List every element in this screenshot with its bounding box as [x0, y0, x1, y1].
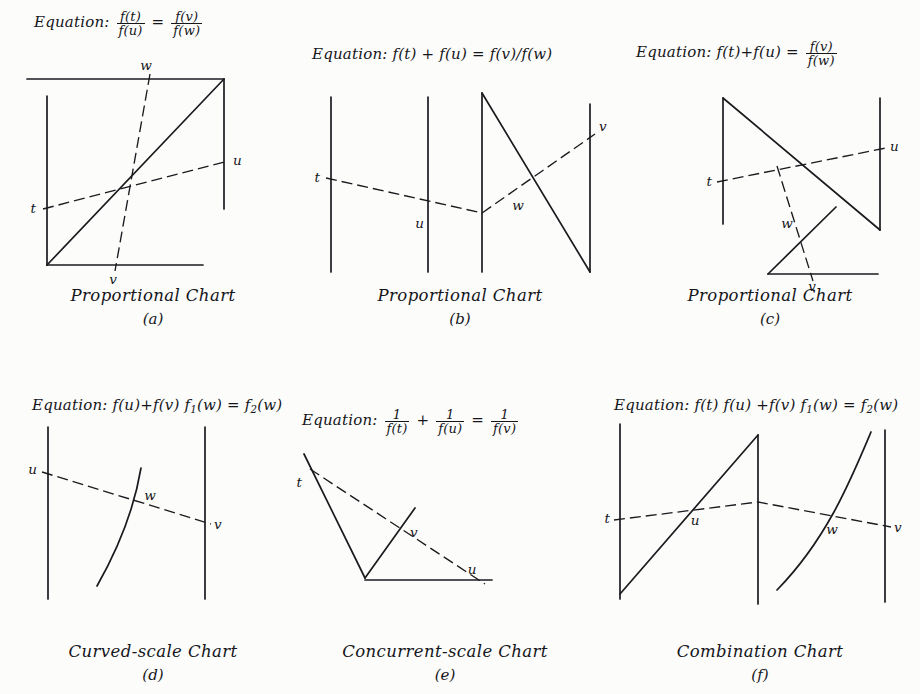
- equation-e-prefix: Equation:: [302, 411, 378, 429]
- caption-e: Concurrent-scale Chart: [280, 642, 610, 661]
- panel-f-drawing: t u w v: [600, 422, 920, 622]
- equation-a-operator: =: [152, 13, 165, 31]
- equation-e-fraction-3-den: f(v): [491, 421, 518, 435]
- panel-b-label-t: t: [315, 169, 321, 185]
- panel-a-label-t: t: [31, 200, 37, 216]
- equation-e: Equation: 1 f(t) + 1 f(u) = 1 f(v): [302, 408, 520, 436]
- panel-e-label-u: u: [468, 561, 477, 577]
- equation-a-fraction-right-den: f(w): [171, 23, 202, 37]
- equation-a-prefix: Equation:: [34, 13, 110, 31]
- equation-e-fraction-1: 1 f(t): [385, 408, 410, 436]
- panel-a-label-v: v: [109, 271, 117, 287]
- equation-e-fraction-2: 1 f(u): [436, 408, 464, 436]
- panel-a-drawing: w u t v: [0, 66, 306, 281]
- equation-e-fraction-1-den: f(t): [385, 421, 410, 435]
- equation-a-fraction-left-num: f(t): [117, 10, 145, 23]
- caption-b: Proportional Chart: [300, 286, 620, 305]
- equation-a-fraction-right: f(v) f(w): [171, 10, 202, 38]
- equation-b: Equation: f(t) + f(u) = f(v)/f(w): [312, 45, 552, 63]
- panel-e-label-v: v: [410, 524, 418, 540]
- panel-b-label-w: w: [512, 197, 524, 213]
- equation-f: Equation: f(t) f(u) +f(v) f1(w) = f2(w): [614, 396, 898, 415]
- panel-b-drawing: t u w v: [300, 82, 620, 282]
- panel-e: Equation: 1 f(t) + 1 f(u) = 1 f(v): [280, 370, 610, 694]
- sublabel-d: (d): [0, 666, 306, 684]
- panel-e-label-t: t: [297, 474, 303, 490]
- panel-f-label-w: w: [826, 521, 838, 537]
- equation-d-sub-1: 1: [190, 404, 197, 415]
- equation-f-part-2: (w) = f: [813, 396, 867, 414]
- figure-sheet: Equation: f(t) f(u) = f(v) f(w): [0, 0, 920, 694]
- equation-d-part-1: f(u)+f(v) f: [113, 396, 191, 414]
- caption-d: Curved-scale Chart: [0, 642, 306, 661]
- equation-e-operator-equals: =: [471, 411, 484, 429]
- equation-a-fraction-left: f(t) f(u): [117, 10, 145, 38]
- equation-d-part-2: (w) = f: [197, 396, 251, 414]
- equation-d: Equation: f(u)+f(v) f1(w) = f2(w): [32, 396, 282, 415]
- panel-c-label-t: t: [707, 173, 713, 189]
- sublabel-c: (c): [620, 310, 920, 328]
- sublabel-f: (f): [600, 666, 920, 684]
- panel-a: Equation: f(t) f(u) = f(v) f(w): [0, 0, 306, 340]
- panel-f-label-v: v: [894, 519, 902, 535]
- sublabel-e: (e): [280, 666, 610, 684]
- panel-d-label-u: u: [28, 461, 37, 477]
- panel-d-drawing: u w v: [0, 424, 306, 614]
- equation-c-fraction: f(v) f(w): [806, 40, 837, 68]
- equation-a-fraction-left-den: f(u): [117, 23, 145, 37]
- panel-b: Equation: f(t) + f(u) = f(v)/f(w) t u w …: [300, 0, 620, 340]
- equation-a: Equation: f(t) f(u) = f(v) f(w): [34, 10, 204, 38]
- caption-f: Combination Chart: [600, 642, 920, 661]
- sublabel-b: (b): [300, 310, 620, 328]
- equation-e-fraction-1-num: 1: [385, 408, 410, 421]
- panel-b-label-v: v: [599, 118, 607, 134]
- equation-a-fraction-right-num: f(v): [171, 10, 202, 23]
- panel-c: Equation: f(t)+f(u) = f(v) f(w) t u w: [620, 0, 920, 340]
- equation-d-prefix: Equation:: [32, 396, 108, 414]
- equation-f-sub-1: 1: [806, 404, 813, 415]
- equation-c: Equation: f(t)+f(u) = f(v) f(w): [636, 40, 839, 68]
- sublabel-a: (a): [0, 310, 306, 328]
- panel-e-drawing: t v u: [280, 446, 610, 626]
- caption-a: Proportional Chart: [0, 286, 306, 305]
- equation-c-fraction-den: f(w): [806, 53, 837, 67]
- equation-e-fraction-2-den: f(u): [436, 421, 464, 435]
- equation-c-head: f(t)+f(u) =: [717, 43, 799, 61]
- caption-c: Proportional Chart: [620, 286, 920, 305]
- panel-c-label-w: w: [781, 215, 793, 231]
- panel-d-label-w: w: [144, 487, 156, 503]
- equation-f-part-3: (w): [873, 396, 898, 414]
- equation-e-fraction-3-num: 1: [491, 408, 518, 421]
- equation-c-prefix: Equation:: [636, 43, 712, 61]
- equation-f-part-1: f(t) f(u) +f(v) f: [695, 396, 807, 414]
- equation-f-prefix: Equation:: [614, 396, 690, 414]
- equation-b-body: f(t) + f(u) = f(v)/f(w): [393, 45, 553, 63]
- panel-a-label-w: w: [140, 57, 152, 73]
- panel-f-label-t: t: [605, 510, 611, 526]
- equation-c-fraction-num: f(v): [806, 40, 837, 53]
- panel-c-drawing: t u w v: [620, 88, 920, 293]
- panel-f: Equation: f(t) f(u) +f(v) f1(w) = f2(w) …: [600, 370, 920, 694]
- equation-b-prefix: Equation:: [312, 45, 388, 63]
- equation-e-operator-plus: +: [416, 411, 429, 429]
- panel-d-label-v: v: [214, 516, 222, 532]
- equation-e-fraction-3: 1 f(v): [491, 408, 518, 436]
- panel-c-label-u: u: [890, 138, 899, 154]
- panel-f-label-u: u: [691, 512, 700, 528]
- panel-a-label-u: u: [233, 152, 242, 168]
- equation-d-part-3: (w): [257, 396, 282, 414]
- panel-d: Equation: f(u)+f(v) f1(w) = f2(w) u w v …: [0, 370, 306, 694]
- equation-e-fraction-2-num: 1: [436, 408, 464, 421]
- panel-b-label-u: u: [415, 215, 424, 231]
